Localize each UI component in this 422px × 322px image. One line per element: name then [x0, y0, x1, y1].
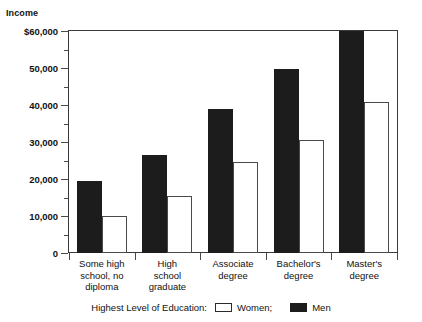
bar-women — [299, 140, 324, 253]
y-axis-title: Income — [6, 8, 38, 18]
x-axis-separator-tick — [397, 253, 398, 260]
x-axis-category-labels: Some highschool, nodiplomaHighschoolgrad… — [69, 258, 397, 300]
bar-women — [102, 216, 127, 253]
bar-chart: Income $60,00050,00040,00030,00020,00010… — [0, 0, 422, 322]
y-axis-tick-label: 30,000 — [0, 137, 58, 148]
y-axis-tick-major — [61, 142, 68, 143]
y-axis-tick-major — [61, 31, 68, 32]
y-axis-tick-minor — [64, 198, 68, 199]
legend-item-women: Women; — [215, 302, 272, 313]
x-axis-category-label-line: degree — [266, 270, 332, 282]
legend: Highest Level of Education: Women; Men — [0, 302, 422, 313]
y-axis-tick-major — [61, 253, 68, 254]
y-axis-tick-label: $60,000 — [0, 26, 58, 37]
x-axis-category-label-line: Associate — [200, 258, 266, 270]
y-axis-tick-minor — [64, 50, 68, 51]
x-axis-category-label-line: degree — [200, 270, 266, 282]
y-axis-tick-label: 40,000 — [0, 100, 58, 111]
bar-men — [208, 109, 233, 253]
bars-layer — [69, 31, 397, 253]
x-axis-category-label: Bachelor'sdegree — [266, 258, 332, 281]
x-axis-category-label-line: graduate — [135, 281, 201, 293]
legend-swatch-men-icon — [290, 303, 307, 312]
x-axis-category-label-line: school — [135, 270, 201, 282]
bar-men — [142, 155, 167, 253]
x-axis-category-label-line: High — [135, 258, 201, 270]
bar-men — [274, 69, 299, 253]
bar-women — [364, 102, 389, 253]
x-axis-category-label-line: degree — [331, 270, 397, 282]
y-axis-tick-label: 10,000 — [0, 211, 58, 222]
legend-item-men: Men — [290, 302, 330, 313]
x-axis-category-label-line: Some high — [69, 258, 135, 270]
y-axis-tick-minor — [64, 87, 68, 88]
x-axis-category-label: Highschoolgraduate — [135, 258, 201, 293]
bar-men — [77, 181, 102, 253]
y-axis-tick-label: 0 — [0, 248, 58, 259]
y-axis-tick-major — [61, 216, 68, 217]
legend-title: Highest Level of Education: — [91, 302, 207, 313]
y-axis-tick-minor — [64, 161, 68, 162]
x-axis-category-label: Some highschool, nodiploma — [69, 258, 135, 293]
x-axis-category-label: Master'sdegree — [331, 258, 397, 281]
bar-women — [167, 196, 192, 253]
x-axis-category-label-line: Bachelor's — [266, 258, 332, 270]
x-axis-category-label: Associatedegree — [200, 258, 266, 281]
x-axis-category-label-line: school, no — [69, 270, 135, 282]
bar-men — [339, 31, 364, 253]
y-axis-tick-major — [61, 68, 68, 69]
bar-women — [233, 162, 258, 253]
legend-label-men: Men — [312, 302, 330, 313]
x-axis-category-label-line: diploma — [69, 281, 135, 293]
y-axis-tick-major — [61, 179, 68, 180]
legend-label-women: Women; — [237, 302, 272, 313]
y-axis-tick-minor — [64, 124, 68, 125]
y-axis-tick-minor — [64, 235, 68, 236]
y-axis-tick-major — [61, 105, 68, 106]
y-axis-tick-label: 20,000 — [0, 174, 58, 185]
x-axis-category-label-line: Master's — [331, 258, 397, 270]
legend-swatch-women-icon — [215, 303, 232, 312]
y-axis-tick-label: 50,000 — [0, 63, 58, 74]
